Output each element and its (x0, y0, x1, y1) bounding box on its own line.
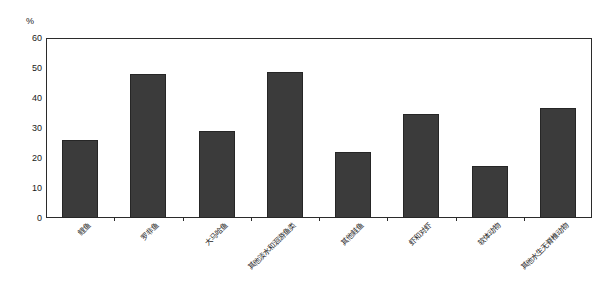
x-axis-category-label-text: 其他水生无脊椎动物 (519, 221, 570, 272)
x-axis-category-label: 其他水生无脊椎动物 (519, 221, 570, 272)
y-axis-tick-label: 20 (22, 154, 42, 163)
bar (267, 72, 303, 218)
x-axis-category-label-text: 大马哈鱼 (203, 221, 229, 247)
y-axis-tick-label: 0 (22, 214, 42, 223)
y-axis-unit-label: % (26, 16, 34, 26)
x-axis-category-labels: 鲤鱼罗非鱼大马哈鱼其他淡水和洄游鱼类其他鲑鱼虾和对虾软体动物其他水生无脊椎动物 (46, 221, 592, 306)
x-axis-category-label: 其他鲑鱼 (339, 221, 365, 247)
bar (62, 140, 98, 218)
y-axis-tick-label: 40 (22, 94, 42, 103)
x-axis-category-label: 鲤鱼 (76, 221, 92, 237)
x-axis-category-label-text: 其他淡水和洄游鱼类 (246, 221, 297, 272)
bar (472, 166, 508, 218)
bar-chart-figure: % 0102030405060 鲤鱼罗非鱼大马哈鱼其他淡水和洄游鱼类其他鲑鱼虾和… (0, 0, 614, 306)
y-axis-tick-label: 60 (22, 34, 42, 43)
bar (540, 108, 576, 218)
x-axis-category-label: 罗非鱼 (140, 221, 161, 242)
y-axis-tick-label: 30 (22, 124, 42, 133)
y-axis-tick-label: 10 (22, 184, 42, 193)
y-axis-tick-labels: 0102030405060 (18, 38, 42, 218)
x-axis-category-label-text: 其他鲑鱼 (339, 221, 365, 247)
x-axis-category-label: 软体动物 (476, 221, 502, 247)
x-axis-category-label-text: 鲤鱼 (76, 221, 92, 237)
bars-container (46, 38, 592, 218)
bar (335, 152, 371, 218)
x-axis-category-label: 其他淡水和洄游鱼类 (246, 221, 297, 272)
bar (130, 74, 166, 218)
x-axis-category-label-text: 虾和对虾 (408, 221, 434, 247)
x-axis-category-label-text: 罗非鱼 (140, 221, 161, 242)
bar (199, 131, 235, 218)
x-axis-category-label: 大马哈鱼 (203, 221, 229, 247)
x-axis-category-label-text: 软体动物 (476, 221, 502, 247)
y-axis-tick-label: 50 (22, 64, 42, 73)
bar (403, 114, 439, 218)
x-axis-category-label: 虾和对虾 (408, 221, 434, 247)
